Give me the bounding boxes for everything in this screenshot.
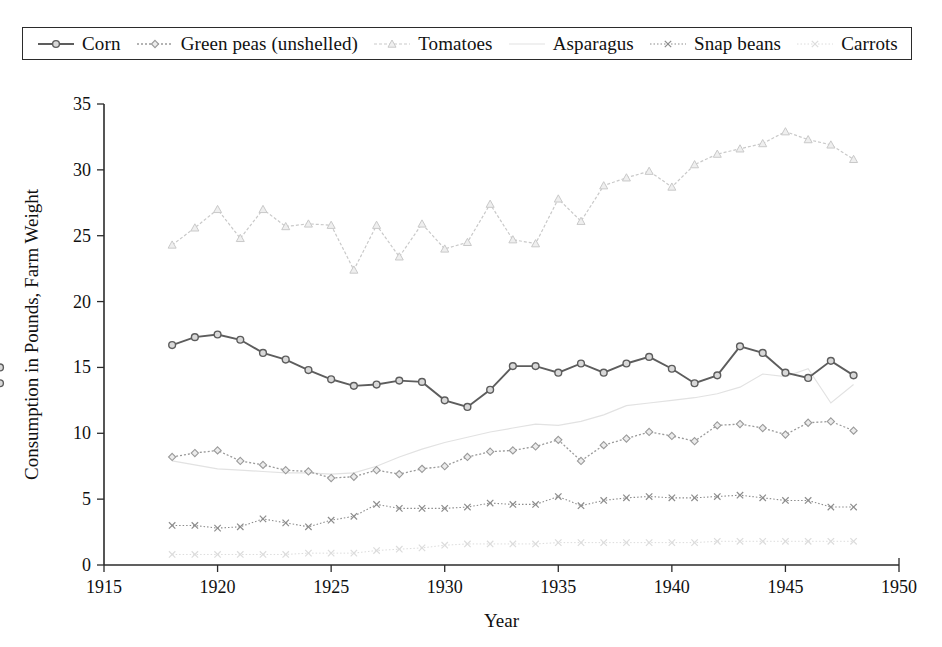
data-point-marker bbox=[396, 471, 403, 478]
data-point-marker bbox=[441, 463, 448, 470]
x-tick-label: 1915 bbox=[86, 577, 122, 597]
data-point-marker bbox=[191, 334, 198, 341]
data-point-marker bbox=[782, 431, 789, 438]
data-point-marker bbox=[509, 447, 516, 454]
data-point-marker bbox=[396, 377, 403, 384]
data-point-marker bbox=[373, 221, 381, 228]
y-tick-label: 30 bbox=[73, 160, 91, 180]
data-point-marker bbox=[441, 397, 448, 404]
x-tick: 1945 bbox=[767, 565, 803, 597]
data-point-marker bbox=[600, 442, 607, 449]
data-point-marker bbox=[668, 432, 675, 439]
data-point-marker bbox=[350, 473, 357, 480]
data-point-marker bbox=[646, 428, 653, 435]
data-point-marker bbox=[168, 241, 176, 248]
data-point-marker bbox=[418, 465, 425, 472]
data-point-marker bbox=[419, 379, 426, 386]
data-point-marker bbox=[305, 468, 312, 475]
y-tick-label: 5 bbox=[82, 489, 91, 509]
data-point-marker bbox=[169, 551, 175, 557]
data-point-marker bbox=[191, 449, 198, 456]
data-point-marker bbox=[850, 427, 857, 434]
x-tick-label: 1945 bbox=[767, 577, 803, 597]
y-tick-label: 10 bbox=[73, 423, 91, 443]
data-point-marker bbox=[350, 382, 357, 389]
data-point-marker bbox=[737, 343, 744, 350]
data-point-marker bbox=[418, 220, 426, 227]
y-tick: 25 bbox=[73, 226, 104, 246]
series-tomatoes bbox=[168, 128, 857, 274]
data-point-marker bbox=[691, 161, 699, 168]
y-axis-title: Consumption in Pounds, Farm Weight bbox=[21, 188, 42, 480]
data-point-marker bbox=[464, 453, 471, 460]
plot-area: 0510152025303519151920192519301935194019… bbox=[0, 0, 942, 647]
series-line bbox=[172, 132, 853, 270]
y-tick: 35 bbox=[73, 94, 104, 114]
data-point-marker bbox=[464, 504, 470, 510]
data-point-marker bbox=[373, 501, 379, 507]
data-point-marker bbox=[645, 167, 653, 174]
data-point-marker bbox=[464, 404, 471, 411]
data-point-marker bbox=[0, 380, 3, 387]
data-point-marker bbox=[532, 240, 540, 247]
data-point-marker bbox=[259, 205, 267, 212]
x-tick: 1950 bbox=[881, 565, 917, 597]
data-point-marker bbox=[463, 238, 471, 245]
data-point-marker bbox=[169, 342, 176, 349]
data-point-marker bbox=[554, 195, 562, 202]
line-chart-svg: 0510152025303519151920192519301935194019… bbox=[0, 0, 942, 647]
data-point-marker bbox=[214, 331, 221, 338]
y-tick-label: 20 bbox=[73, 292, 91, 312]
data-point-marker bbox=[781, 128, 789, 135]
data-point-marker bbox=[827, 418, 834, 425]
x-axis-title: Year bbox=[484, 610, 520, 631]
axes-layer: 0510152025303519151920192519301935194019… bbox=[73, 94, 917, 597]
data-point-marker bbox=[759, 350, 766, 357]
data-point-marker bbox=[736, 420, 743, 427]
data-point-marker bbox=[169, 522, 175, 528]
x-tick: 1920 bbox=[200, 565, 236, 597]
data-point-marker bbox=[486, 200, 494, 207]
x-tick: 1925 bbox=[313, 565, 349, 597]
x-tick-label: 1935 bbox=[540, 577, 576, 597]
series-layer bbox=[0, 128, 858, 558]
data-point-marker bbox=[759, 424, 766, 431]
data-point-marker bbox=[577, 217, 585, 224]
data-point-marker bbox=[714, 372, 721, 379]
data-point-marker bbox=[782, 369, 789, 376]
data-point-marker bbox=[328, 376, 335, 383]
data-point-marker bbox=[532, 363, 539, 370]
data-point-marker bbox=[305, 524, 311, 530]
data-point-marker bbox=[850, 504, 856, 510]
y-tick: 5 bbox=[82, 489, 104, 509]
data-point-marker bbox=[169, 453, 176, 460]
x-tick-label: 1925 bbox=[313, 577, 349, 597]
x-tick: 1940 bbox=[654, 565, 690, 597]
data-point-marker bbox=[350, 266, 358, 273]
series-line bbox=[172, 495, 853, 528]
data-point-marker bbox=[328, 517, 334, 523]
y-tick: 20 bbox=[73, 292, 104, 312]
data-point-marker bbox=[305, 367, 312, 374]
data-point-marker bbox=[600, 369, 607, 376]
series-line bbox=[172, 335, 853, 407]
series-snap-beans bbox=[169, 492, 857, 531]
y-tick-label: 15 bbox=[73, 357, 91, 377]
x-tick-label: 1940 bbox=[654, 577, 690, 597]
data-point-marker bbox=[259, 461, 266, 468]
data-point-marker bbox=[646, 353, 653, 360]
data-point-marker bbox=[237, 336, 244, 343]
y-tick: 30 bbox=[73, 160, 104, 180]
x-tick: 1935 bbox=[540, 565, 576, 597]
data-point-marker bbox=[555, 493, 561, 499]
data-point-marker bbox=[759, 140, 767, 147]
x-tick-label: 1920 bbox=[200, 577, 236, 597]
data-point-marker bbox=[600, 182, 608, 189]
data-point-marker bbox=[736, 145, 744, 152]
data-point-marker bbox=[828, 538, 834, 544]
data-point-marker bbox=[850, 155, 858, 162]
x-tick-label: 1950 bbox=[881, 577, 917, 597]
data-point-marker bbox=[419, 505, 425, 511]
data-point-marker bbox=[487, 448, 494, 455]
data-point-marker bbox=[487, 386, 494, 393]
